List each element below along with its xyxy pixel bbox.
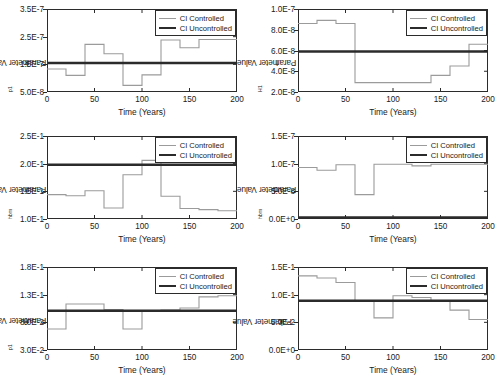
legend-item-controlled[interactable]: CI Controlled [159,271,232,281]
legend-swatch-uncontrolled-icon [159,285,176,287]
legend-item-controlled[interactable]: CI Controlled [159,13,232,23]
legend-item-uncontrolled[interactable]: CI Uncontrolled [410,281,483,291]
plot-area: CI ControlledCI Uncontrolled [47,136,237,219]
chart-panel-bottom-left: θp1 Parameter Value3.0E-28.0E-21.3E-11.8… [0,255,250,386]
x-axis-tick-label: 50 [90,222,99,231]
plot-area: CI ControlledCI Uncontrolled [47,9,237,92]
x-axis-tick-label: 150 [183,222,197,231]
y-axis-ticks: 0.0E+05.0E-81.0E-71.5E-7 [250,124,298,255]
legend-item-controlled[interactable]: CI Controlled [159,140,232,150]
figure-panel-grid: kp1 Parameter Value5.0E-81.5E-72.5E-73.5… [0,0,501,386]
legend-item-controlled[interactable]: CI Controlled [410,13,483,23]
y-axis-ticks: 1.0E-11.5E-12.0E-12.5E-1 [0,124,47,255]
y-axis-ticks: 0.0E+05.0E-21.0E-11.5E-1 [250,255,298,386]
legend-swatch-uncontrolled-icon [410,285,427,287]
legend-swatch-controlled-icon [159,276,176,277]
x-axis-tick-label: 100 [386,353,400,362]
legend: CI ControlledCI Uncontrolled [155,10,236,36]
legend-swatch-controlled-icon [159,18,176,19]
legend-item-uncontrolled[interactable]: CI Uncontrolled [159,23,232,33]
x-axis-tick-label: 200 [230,95,244,104]
legend-label-uncontrolled: CI Uncontrolled [180,282,232,291]
legend-item-controlled[interactable]: CI Controlled [410,140,483,150]
x-axis-tick-label: 0 [296,95,301,104]
legend: CI ControlledCI Uncontrolled [155,268,236,294]
legend-item-uncontrolled[interactable]: CI Uncontrolled [410,150,483,160]
legend-swatch-controlled-icon [410,276,427,277]
chart-panel-middle-left: λhbm Parameter Value1.0E-11.5E-12.0E-12.… [0,124,250,255]
x-axis-tick-label: 200 [481,222,495,231]
legend-label-controlled: CI Controlled [180,14,224,23]
series-line-controlled [47,160,237,210]
legend-swatch-controlled-icon [410,145,427,146]
legend: CI ControlledCI Uncontrolled [155,137,236,163]
legend-label-uncontrolled: CI Uncontrolled [431,282,483,291]
series-line-controlled [47,296,237,329]
legend-label-uncontrolled: CI Uncontrolled [431,24,483,33]
x-axis-tick-label: 100 [135,95,149,104]
x-axis-tick-label: 150 [434,353,448,362]
y-axis-tick-mark [43,92,47,93]
plot-area: CI ControlledCI Uncontrolled [47,267,237,350]
x-axis-tick-label: 50 [341,222,350,231]
legend-item-uncontrolled[interactable]: CI Uncontrolled [159,281,232,291]
y-axis-ticks: 3.0E-28.0E-21.3E-11.8E-1 [0,255,47,386]
legend-swatch-controlled-icon [159,145,176,146]
x-axis-label: Time (Years) [369,107,416,117]
plot-area: CI ControlledCI Uncontrolled [298,9,488,92]
x-axis-tick-label: 100 [135,353,149,362]
x-axis-tick-label: 150 [434,222,448,231]
chart-panel-top-left: kp1 Parameter Value5.0E-81.5E-72.5E-73.5… [0,0,250,124]
y-axis-tick-mark [43,350,47,351]
x-axis-label: Time (Years) [369,234,416,244]
legend-swatch-controlled-icon [410,18,427,19]
legend-label-uncontrolled: CI Uncontrolled [431,151,483,160]
x-axis-tick-label: 200 [230,353,244,362]
y-axis-tick-mark [294,350,298,351]
y-axis-ticks: 5.0E-81.5E-72.5E-73.5E-7 [0,0,47,124]
x-axis-label: Time (Years) [118,107,165,117]
plot-area: CI ControlledCI Uncontrolled [298,136,488,219]
legend-item-uncontrolled[interactable]: CI Uncontrolled [159,150,232,160]
legend-label-controlled: CI Controlled [431,272,475,281]
legend: CI ControlledCI Uncontrolled [406,10,487,36]
legend-label-controlled: CI Controlled [180,272,224,281]
legend-label-uncontrolled: CI Uncontrolled [180,151,232,160]
x-axis-tick-label: 50 [90,353,99,362]
legend-label-controlled: CI Controlled [180,141,224,150]
chart-panel-top-right: IH1 Parameter Value2.0E-84.0E-86.0E-88.0… [250,0,501,124]
legend-label-controlled: CI Controlled [431,14,475,23]
legend-swatch-uncontrolled-icon [159,154,176,156]
x-axis-tick-label: 150 [434,95,448,104]
legend-label-uncontrolled: CI Uncontrolled [180,24,232,33]
x-axis-tick-label: 0 [45,222,50,231]
x-axis-tick-label: 200 [230,222,244,231]
series-line-controlled [298,164,488,194]
x-axis-tick-label: 0 [45,95,50,104]
x-axis-label: Time (Years) [369,365,416,375]
x-axis-tick-label: 100 [386,222,400,231]
x-axis-tick-label: 50 [90,95,99,104]
legend: CI ControlledCI Uncontrolled [406,137,487,163]
legend-swatch-uncontrolled-icon [410,154,427,156]
legend-item-uncontrolled[interactable]: CI Uncontrolled [410,23,483,33]
legend-swatch-uncontrolled-icon [159,27,176,29]
x-axis-tick-label: 150 [183,95,197,104]
x-axis-tick-label: 0 [45,353,50,362]
chart-panel-bottom-right: k Parameter Value0.0E+05.0E-21.0E-11.5E-… [250,255,501,386]
y-axis-tick-mark [294,219,298,220]
x-axis-tick-label: 150 [183,353,197,362]
y-axis-tick-mark [43,219,47,220]
legend-item-controlled[interactable]: CI Controlled [410,271,483,281]
x-axis-tick-label: 100 [135,222,149,231]
legend-label-controlled: CI Controlled [431,141,475,150]
legend: CI ControlledCI Uncontrolled [406,268,487,294]
x-axis-tick-label: 200 [481,95,495,104]
x-axis-tick-label: 200 [481,353,495,362]
x-axis-label: Time (Years) [118,234,165,244]
legend-swatch-uncontrolled-icon [410,27,427,29]
x-axis-tick-label: 0 [296,222,301,231]
chart-panel-middle-right: dhbm Parameter Value0.0E+05.0E-81.0E-71.… [250,124,501,255]
x-axis-tick-label: 0 [296,353,301,362]
x-axis-tick-label: 100 [386,95,400,104]
